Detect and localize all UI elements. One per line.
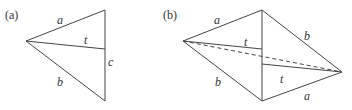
label-t: t bbox=[84, 33, 88, 47]
segment-t-top bbox=[183, 41, 262, 49]
label-t-bottom: t bbox=[280, 72, 284, 86]
segment-t-bottom bbox=[262, 64, 342, 72]
diagram-canvas: (a) a t c b (b) a b t b t a bbox=[0, 0, 352, 110]
label-b: b bbox=[57, 75, 63, 89]
label-a: a bbox=[57, 13, 63, 27]
segment-t bbox=[26, 41, 105, 49]
edge-b-bottom bbox=[183, 41, 262, 101]
figure-a: (a) a t c b bbox=[5, 8, 114, 101]
label-b-top: b bbox=[304, 29, 310, 43]
figure-b: (b) a b t b t a bbox=[163, 8, 342, 103]
label-t-top: t bbox=[244, 35, 248, 49]
edge-a bbox=[26, 10, 105, 41]
edge-a-bottom bbox=[262, 72, 342, 101]
figure-b-tag: (b) bbox=[163, 8, 177, 22]
label-a-bottom: a bbox=[304, 89, 310, 103]
label-b-bottom: b bbox=[215, 75, 221, 89]
edge-a-top bbox=[183, 10, 262, 41]
figure-a-tag: (a) bbox=[5, 8, 18, 22]
label-a-top: a bbox=[214, 13, 220, 27]
label-c: c bbox=[108, 55, 114, 69]
edge-b bbox=[26, 41, 105, 101]
edge-b-top bbox=[262, 10, 342, 72]
